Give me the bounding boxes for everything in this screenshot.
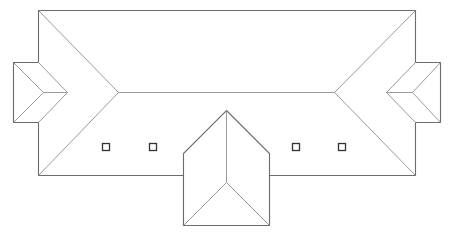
right-wing-line-3 (387, 63, 416, 93)
left-wing-line-4 (39, 93, 68, 123)
right-wing-dormer (387, 63, 441, 123)
right-wing-line-4 (387, 93, 416, 123)
skylight-icon-1 (150, 144, 157, 151)
roof-plan-svg (0, 0, 450, 237)
right-wing-line-0 (413, 63, 441, 93)
skylight-icon-0 (103, 144, 110, 151)
roof-plan-diagram (0, 0, 450, 237)
center-front-gable (184, 111, 270, 226)
left-wing-dormer (14, 63, 68, 123)
hip-line-3 (335, 93, 416, 176)
skylight-icon-3 (339, 144, 346, 151)
hip-line-0 (39, 11, 119, 93)
left-wing-line-1 (14, 93, 44, 123)
hip-line-1 (335, 11, 416, 93)
hip-line-2 (39, 93, 119, 176)
left-wing-line-0 (14, 63, 44, 93)
left-wing-line-3 (39, 63, 68, 93)
skylight-icon-2 (293, 144, 300, 151)
right-wing-line-1 (413, 93, 441, 123)
